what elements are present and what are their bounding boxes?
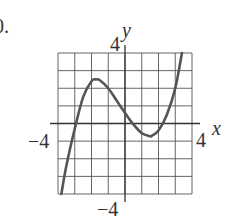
y-min-tick-label: −4 xyxy=(97,199,118,219)
y-axis-label: y xyxy=(122,20,131,40)
x-max-tick-label: 4 xyxy=(196,130,206,150)
graph-figure: 0. 4 y x 4 −4 −4 xyxy=(0,0,230,222)
axes xyxy=(50,45,200,202)
x-axis-label: x xyxy=(212,118,221,138)
x-min-tick-label: −4 xyxy=(28,131,49,151)
y-max-tick-label: 4 xyxy=(110,34,120,54)
